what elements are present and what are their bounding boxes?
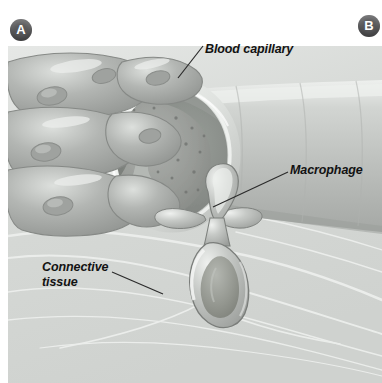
leader-line-macrophage [213,172,288,207]
label-macrophage: Macrophage [290,163,363,178]
leader-line-connective-tissue [112,272,163,294]
panel-badge-b: B [358,15,380,37]
panel-badge-a: A [10,19,32,41]
figure-panel: Blood capillary Macrophage Connective ti… [0,0,382,383]
label-blood-capillary: Blood capillary [205,42,293,57]
leader-lines-layer [0,0,382,383]
leader-line-blood-capillary [178,46,203,78]
label-connective-tissue: Connective tissue [42,260,108,290]
